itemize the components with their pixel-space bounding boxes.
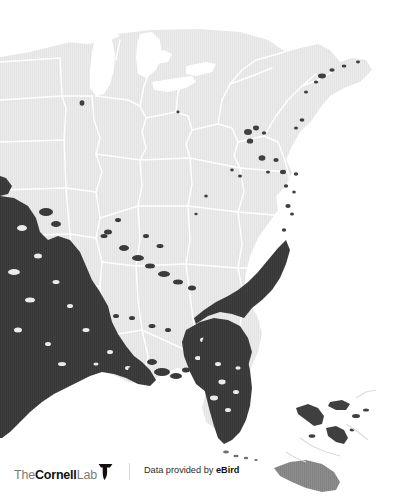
ebird-wordmark: eBird: [216, 465, 240, 475]
logo-cornell-text: Cornell: [35, 468, 77, 482]
attribution-prefix-text: Data provided by: [144, 465, 216, 475]
cornell-lab-logo[interactable]: TheCornellLab: [14, 461, 113, 481]
logo-the-text: The: [14, 468, 35, 482]
range-bahamas: [296, 400, 369, 444]
range-map-canvas[interactable]: [0, 0, 414, 502]
bird-icon: [98, 463, 113, 480]
range-map-figure: TheCornellLab Data provided by eBird: [0, 0, 414, 502]
logo-lab-text: Lab: [77, 468, 97, 482]
map-footer: TheCornellLab Data provided by eBird: [0, 440, 414, 502]
cornell-lab-wordmark: TheCornellLab: [14, 469, 97, 482]
ebird-attribution[interactable]: Data provided by eBird: [144, 466, 240, 475]
footer-divider: [129, 463, 130, 480]
